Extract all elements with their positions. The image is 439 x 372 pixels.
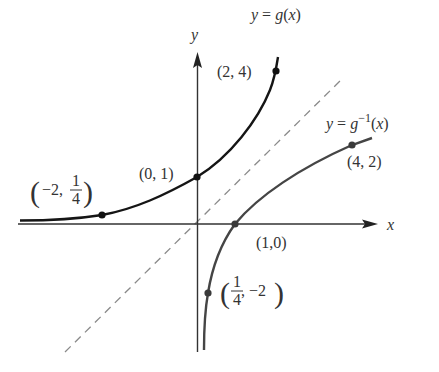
label-g-2: (2, 4) [217,63,252,81]
svg-text:1: 1 [233,273,241,290]
point-g-neg2 [98,211,105,218]
point-g-2 [272,67,279,74]
svg-text:(: ( [30,175,40,209]
svg-text:−2,: −2, [42,181,63,198]
identity-line [65,79,342,352]
y-axis [193,52,202,352]
inverse-function-graph: x y y = g(x) y = g−1(x) (2, 4) (0, 1) (4 [0,0,439,372]
point-ginv-quarter [204,289,211,296]
svg-text:4: 4 [72,190,80,207]
label-g-neg2: ( −2, 1 4 ) [30,172,93,209]
curve-g-label: y = g(x) [249,6,301,24]
y-axis-label: y [189,26,199,44]
label-ginv-1: (1,0) [256,234,287,252]
label-g-0: (0, 1) [139,165,174,183]
svg-text:4: 4 [233,291,241,308]
x-axis-label: x [386,216,394,233]
svg-text:(: ( [220,276,230,310]
svg-text:, −2: , −2 [241,282,266,299]
svg-text:): ) [274,276,284,310]
label-ginv-quarter: ( 1 4 , −2 ) [220,273,284,310]
point-ginv-1 [231,220,238,227]
point-g-0 [193,173,200,180]
svg-text:1: 1 [72,172,80,189]
svg-text:): ) [83,175,93,209]
point-ginv-4 [348,141,355,148]
label-ginv-4: (4, 2) [347,153,382,171]
curve-g-inverse-label: y = g−1(x) [324,111,389,133]
